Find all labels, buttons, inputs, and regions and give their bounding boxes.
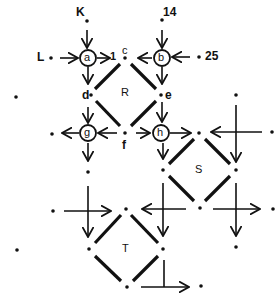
label-c: c: [122, 45, 128, 56]
label-l: L: [37, 51, 44, 63]
label-d: d: [82, 89, 89, 101]
label-14: 14: [163, 6, 176, 18]
node-h-label: h: [157, 127, 163, 138]
label-e: e: [165, 89, 172, 101]
region-s-label: S: [195, 164, 202, 175]
node-b-label: b: [158, 52, 164, 63]
label-f: f: [122, 139, 126, 151]
label-25: 25: [205, 50, 218, 62]
diagram-canvas: [0, 0, 280, 295]
node-g-label: g: [84, 127, 90, 138]
label-1: 1: [110, 51, 116, 62]
region-r-label: R: [121, 87, 129, 98]
region-t-label: T: [122, 243, 129, 254]
label-k: K: [76, 6, 85, 18]
node-a-label: a: [84, 52, 90, 63]
